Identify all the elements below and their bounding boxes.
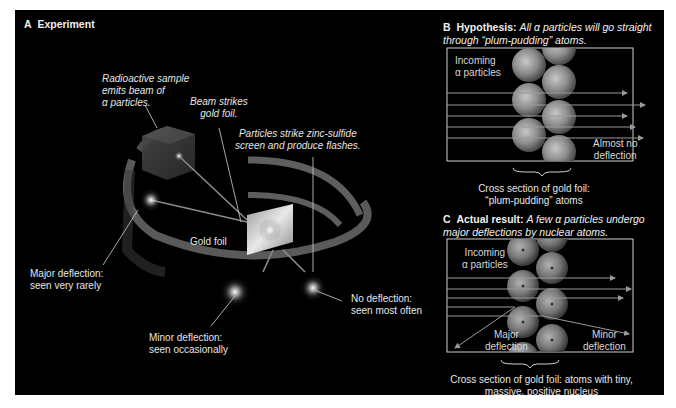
flash-none-icon [299,274,327,302]
panel-b-subtitle: All α particles will go straight [519,21,651,33]
label-b-incoming: Incoming α particles [455,55,501,79]
brace-icon [513,168,571,176]
radioactive-source-icon [142,126,195,180]
brace-icon [501,360,559,368]
panel-c-letter: C [443,213,451,225]
flash-minor-icon [219,276,251,308]
caption-c: Cross section of gold foil: atoms with t… [439,374,644,395]
label-minor-deflection: Minor deflection: seen occasionally [149,332,228,356]
label-source: Radioactive sample emits beam of α parti… [102,73,189,109]
label-c-major-deflection: Major deflection [485,329,528,353]
panel-c-subtitle: A few α particles undergo [526,213,644,225]
flash-major-icon [139,188,163,212]
rutherford-figure: A Experiment Radioactive sample emits be… [15,10,664,395]
panel-a-letter: A [24,18,32,30]
label-no-deflection: No deflection: seen most often [351,293,422,317]
panel-b-letter: B [443,21,451,33]
label-c-incoming: Incoming α particles [462,247,508,271]
label-screen: Particles strike zinc-sulfide screen and… [235,128,361,152]
panel-c-title: Actual result: [456,213,523,225]
label-beam: Beam strikes gold foil. [190,96,248,120]
panel-b-heading: B Hypothesis: All α particles will go st… [443,21,652,46]
label-gold-foil: Gold foil [190,236,227,248]
label-b-almost-no-deflection: Almost no deflection [593,138,637,162]
panel-a-title: Experiment [37,18,94,30]
panel-c-subtitle-2: major deflections by nuclear atoms. [443,226,608,238]
panel-b-subtitle-2: through “plum-pudding” atoms. [443,34,587,46]
caption-b: Cross section of gold foil: “plum-puddin… [474,183,594,207]
panel-c-heading: C Actual result: A few α particles under… [443,213,645,238]
label-c-minor-deflection: Minor deflection [583,329,626,353]
label-major-deflection: Major deflection: seen very rarely [30,268,103,292]
panel-b-title: Hypothesis: [456,21,516,33]
panel-a-heading: A Experiment [24,18,95,31]
